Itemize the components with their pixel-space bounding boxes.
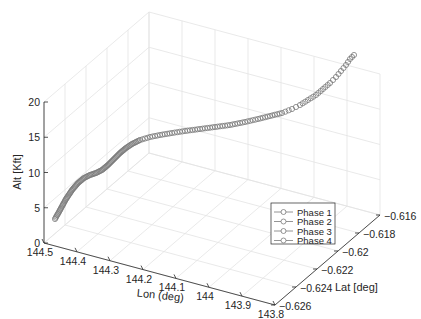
legend-marker-icon bbox=[281, 219, 286, 224]
legend: Phase 1Phase 2Phase 3Phase 4 bbox=[271, 203, 335, 246]
legend-item-label: Phase 4 bbox=[297, 235, 332, 246]
z-axis-label: Alt [Kft] bbox=[11, 154, 23, 189]
y-tick-label: −0.626 bbox=[279, 300, 312, 312]
z-tick-label: 10 bbox=[28, 167, 40, 179]
y-tick-label: −0.624 bbox=[300, 282, 333, 294]
x-tick-label: 143.9 bbox=[225, 299, 251, 311]
legend-marker-icon bbox=[281, 210, 286, 215]
y-axis-label: Lat [deg] bbox=[335, 281, 378, 293]
grid-lines bbox=[44, 12, 380, 305]
y-tick-label: −0.62 bbox=[342, 246, 369, 258]
y-tick-label: −0.622 bbox=[321, 264, 354, 276]
legend-marker-icon bbox=[281, 238, 286, 243]
y-tick-label: −0.616 bbox=[384, 210, 417, 222]
z-tick-label: 15 bbox=[28, 131, 40, 143]
z-tick-label: 5 bbox=[34, 202, 40, 214]
x-tick-label: 144.5 bbox=[27, 246, 53, 258]
x-tick-label: 144.3 bbox=[93, 264, 119, 276]
y-tick-label: −0.618 bbox=[363, 228, 396, 240]
x-tick-label: 144.4 bbox=[60, 255, 86, 267]
trajectory-3d-plot: 05101520144.5144.4144.3144.2144.1144143.… bbox=[0, 0, 421, 319]
z-tick-label: 20 bbox=[28, 96, 40, 108]
x-tick-label: 144.2 bbox=[126, 273, 152, 285]
legend-marker-icon bbox=[281, 229, 286, 234]
x-tick-label: 144 bbox=[196, 290, 214, 302]
